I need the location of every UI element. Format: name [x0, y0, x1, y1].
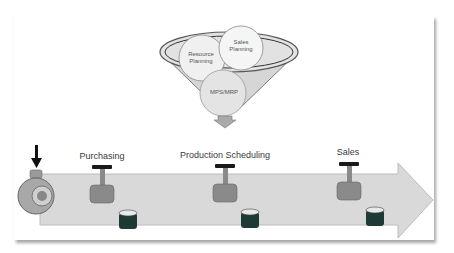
- sales-tank-icon: [366, 207, 384, 226]
- down-arrow-icon: [31, 145, 42, 168]
- funnel-output-arrow-icon: [214, 116, 236, 128]
- production-tank-icon: [241, 209, 259, 228]
- stage-label-purchasing: Purchasing: [79, 151, 124, 161]
- purchasing-tank-icon: [119, 210, 137, 229]
- mps-mrp-label: MPS/MRP: [210, 89, 238, 96]
- supply-chain-pipeline-diagram: [0, 0, 454, 253]
- stage-label-sales: Sales: [337, 147, 360, 157]
- sales-planning-label: Sales Planning: [229, 39, 252, 53]
- stage-label-production-scheduling: Production Scheduling: [180, 150, 270, 160]
- resource-planning-label: Resource Planning: [188, 51, 214, 65]
